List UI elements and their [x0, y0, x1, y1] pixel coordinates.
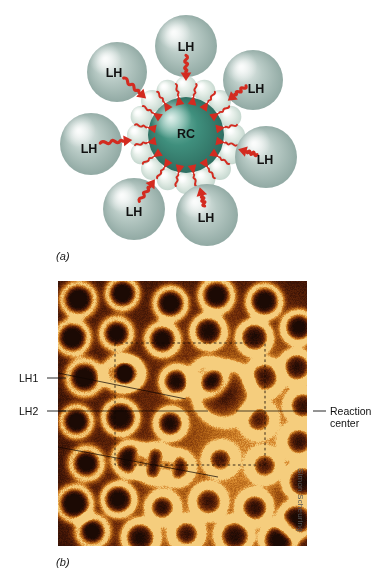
panel-a-schematic: [0, 0, 389, 258]
panel-a-letter: (a): [56, 250, 70, 262]
figure-photosynthetic-membrane: (a) LH1 LH2 Reaction center (b) Simon Sc…: [0, 0, 389, 575]
image-credit: Simon Scheuring: [296, 468, 305, 532]
lh-rc-schematic-canvas: [0, 0, 389, 258]
afm-annotation-overlay: [58, 281, 307, 546]
callout-label-lh1: LH1: [19, 372, 38, 384]
callout-label-lh2: LH2: [19, 405, 38, 417]
callout-label-reaction-center: Reaction center: [330, 405, 371, 429]
panel-b-afm-image: [58, 281, 307, 546]
panel-b-letter: (b): [56, 556, 70, 568]
